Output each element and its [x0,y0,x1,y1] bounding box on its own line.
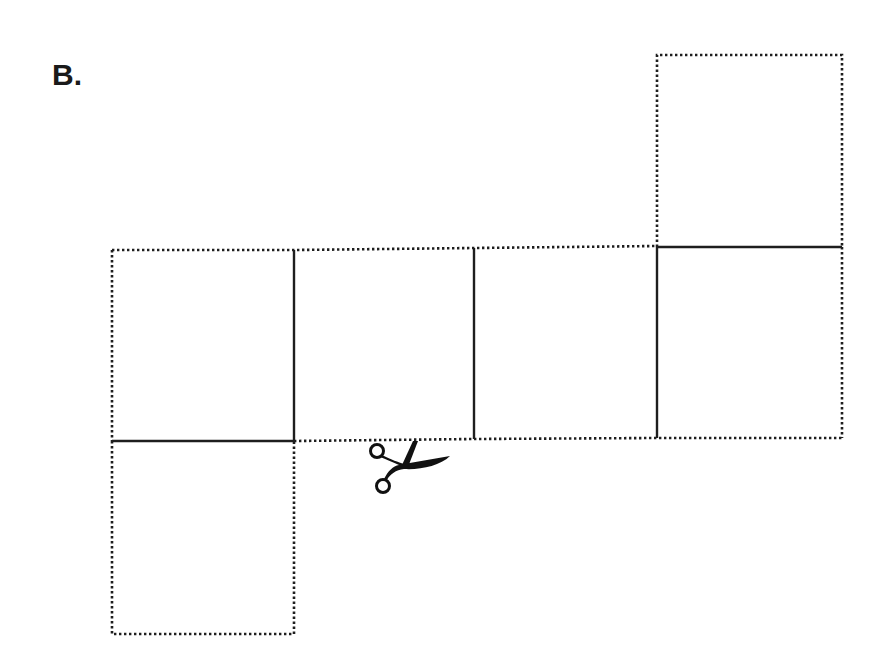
scissors-icon [371,441,451,493]
cut-line-strip-top [112,246,657,250]
fold-lines [112,247,842,441]
cut-line-top-flap [657,55,842,247]
cut-line-strip-bottom [294,438,842,441]
cut-lines [112,55,842,634]
cut-line-bottom-flap [112,441,294,634]
cube-net-diagram [0,0,887,658]
